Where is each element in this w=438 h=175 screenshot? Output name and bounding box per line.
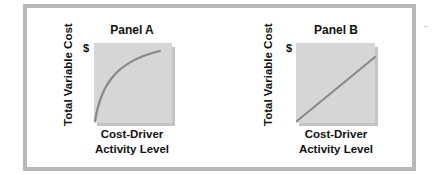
stray-mark	[424, 26, 428, 27]
panel-b-x-axis-label: Cost-Driver Activity Level	[276, 127, 396, 157]
